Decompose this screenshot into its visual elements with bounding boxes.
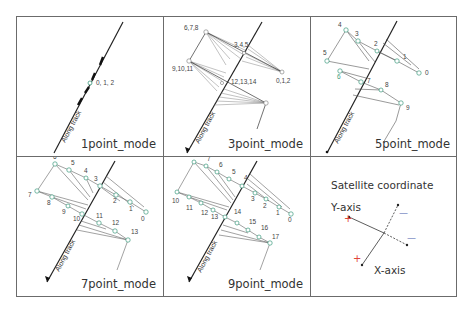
point-label: 1 bbox=[276, 209, 280, 216]
point-label: 7 bbox=[207, 157, 211, 162]
mode-label: 3point_mode bbox=[228, 137, 303, 151]
point-label: 5 bbox=[71, 159, 75, 166]
point-label: 2 bbox=[374, 40, 378, 47]
along-track-label: Along track bbox=[54, 238, 78, 273]
point-label: 0 bbox=[141, 215, 145, 222]
3point-diagram: 6,7,8 3,4,5 9,10,11 0,1,2 12,13,14 Along… bbox=[164, 17, 311, 157]
point-label: 4 bbox=[338, 21, 342, 28]
mode-label: 9point_mode bbox=[228, 277, 303, 291]
y-minus-sign: — bbox=[407, 233, 416, 243]
point-label: 9 bbox=[406, 104, 410, 111]
coordinate-axes-diagram bbox=[311, 157, 458, 297]
point-label: 6,7,8 bbox=[184, 24, 199, 31]
point-label: 15 bbox=[249, 218, 257, 225]
point-label: 3 bbox=[355, 30, 359, 37]
along-track-label: Along track bbox=[196, 239, 220, 274]
panel-satellite-coordinate: Satellite coordinate Y-axis X-axis + + —… bbox=[311, 157, 458, 297]
point-label: 1 bbox=[403, 53, 407, 60]
mode-label: 7point_mode bbox=[81, 277, 156, 291]
x-plus-sign: + bbox=[353, 253, 361, 264]
7point-diagram: 6 5 4 3 7 8 9 2 1 0 10 11 12 13 Along tr… bbox=[17, 157, 164, 297]
mode-label: 5point_mode bbox=[375, 137, 450, 151]
point-label: 10 bbox=[172, 197, 180, 204]
panel-5point-mode: 4 3 2 5 1 0 6 7 8 9 Along track 5point_m… bbox=[311, 17, 458, 157]
point-label: 13 bbox=[211, 213, 219, 220]
along-track-label: Along track bbox=[60, 109, 84, 144]
point-label: 8 bbox=[47, 199, 51, 206]
figure-grid: 0, 1, 2 Along track 1point_mode bbox=[16, 16, 457, 297]
point-label: 5 bbox=[323, 49, 327, 56]
point-label: 4 bbox=[244, 174, 248, 181]
point-label: 6 bbox=[219, 161, 223, 168]
point-label: 6 bbox=[53, 157, 57, 160]
point-label: 0 bbox=[425, 69, 429, 76]
mode-label: 1point_mode bbox=[81, 137, 156, 151]
along-track-label: Along track bbox=[194, 110, 218, 145]
point-label: 8 bbox=[192, 157, 196, 158]
point-label: 8 bbox=[385, 81, 389, 88]
point-label: 13 bbox=[131, 228, 139, 235]
y-axis-positive-line bbox=[349, 217, 384, 233]
point-label: 11 bbox=[186, 204, 193, 211]
point-label: 12 bbox=[112, 219, 120, 226]
point-label: 12,13,14 bbox=[231, 78, 257, 85]
x-minus-sign: — bbox=[399, 208, 408, 218]
point-label: 4 bbox=[84, 167, 88, 174]
point-label: 10 bbox=[73, 215, 81, 222]
point-label: 12 bbox=[201, 209, 209, 216]
point-label: 3 bbox=[251, 195, 255, 202]
point-label: 0,1,2 bbox=[276, 77, 291, 84]
point-label: 3 bbox=[94, 175, 98, 182]
1point-diagram: 0, 1, 2 Along track bbox=[17, 17, 164, 157]
point-label: 6 bbox=[337, 73, 341, 80]
5point-diagram: 4 3 2 5 1 0 6 7 8 9 Along track bbox=[311, 17, 458, 157]
panel-1point-mode: 0, 1, 2 Along track 1point_mode bbox=[17, 17, 164, 157]
9point-diagram: 8 7 6 5 4 3 2 1 0 10 11 12 13 14 15 16 1… bbox=[164, 157, 311, 297]
point-label: 1 bbox=[129, 205, 133, 212]
point-label: 9,10,11 bbox=[172, 65, 194, 72]
point-label: 2 bbox=[263, 202, 267, 209]
point-label: 14 bbox=[234, 208, 242, 215]
panel-3point-mode: 6,7,8 3,4,5 9,10,11 0,1,2 12,13,14 Along… bbox=[164, 17, 311, 157]
x-axis-positive-line bbox=[362, 233, 384, 265]
point-label: 3,4,5 bbox=[234, 41, 249, 48]
point-label: 7 bbox=[367, 77, 371, 84]
panel-9point-mode: 8 7 6 5 4 3 2 1 0 10 11 12 13 14 15 16 1… bbox=[164, 157, 311, 297]
point-label: 11 bbox=[96, 212, 103, 219]
along-track-label: Along track bbox=[333, 110, 357, 145]
point-label: 16 bbox=[261, 224, 269, 231]
point-label: 17 bbox=[272, 233, 280, 240]
y-plus-sign: + bbox=[344, 213, 352, 224]
x-axis-negative-line bbox=[384, 205, 398, 233]
point-label: 0 bbox=[288, 216, 292, 223]
panel-7point-mode: 6 5 4 3 7 8 9 2 1 0 10 11 12 13 Along tr… bbox=[17, 157, 164, 297]
point-label: 2 bbox=[113, 197, 117, 204]
point-label: 0, 1, 2 bbox=[96, 79, 114, 86]
point-label: 7 bbox=[28, 191, 32, 198]
y-axis-negative-line bbox=[384, 233, 407, 245]
point-label: 5 bbox=[232, 168, 236, 175]
point-label: 9 bbox=[62, 208, 66, 215]
point-marker bbox=[88, 81, 92, 85]
